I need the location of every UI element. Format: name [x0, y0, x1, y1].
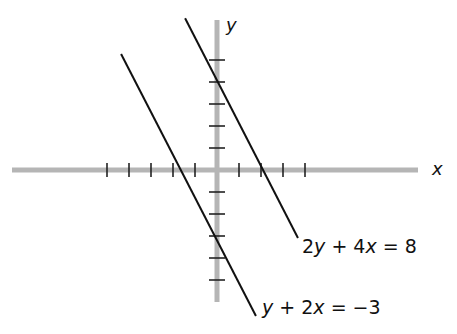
- eq1-var-y: y: [314, 235, 325, 257]
- axes: [12, 20, 418, 302]
- eq2-var-y: y: [262, 296, 273, 318]
- line-2: [121, 54, 256, 316]
- x-axis-label: x: [432, 160, 443, 178]
- coordinate-plane: [0, 0, 457, 334]
- eq1-coef-x: + 4: [325, 235, 365, 257]
- plotted-lines: [121, 18, 298, 316]
- equation-label-line-2: y + 2x = −3: [262, 298, 381, 317]
- eq2-coef-x: + 2: [273, 296, 313, 318]
- eq2-var-x: x: [313, 296, 324, 318]
- eq2-rhs: = −3: [325, 296, 381, 318]
- eq1-rhs: = 8: [377, 235, 417, 257]
- eq1-coef: 2: [302, 235, 314, 257]
- line-1: [185, 18, 298, 238]
- eq1-var-x: x: [365, 235, 376, 257]
- y-axis-label: y: [226, 16, 237, 34]
- equation-label-line-1: 2y + 4x = 8: [302, 237, 417, 256]
